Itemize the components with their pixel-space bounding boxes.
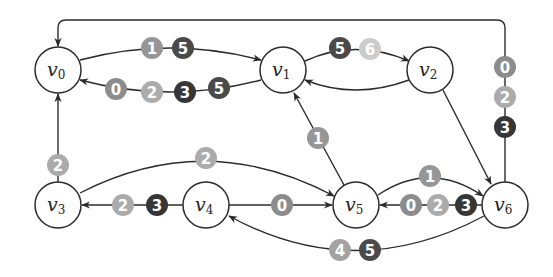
edge-v1-v2: [305, 50, 409, 62]
edge-v6-v0: [58, 20, 505, 182]
edge-label-badge: 3: [146, 194, 168, 216]
edge-label-value: 6: [365, 41, 375, 59]
node-label-v6: v: [494, 193, 505, 215]
edge-label-badge: 2: [141, 81, 163, 103]
edge-label-value: 5: [214, 80, 224, 98]
node-label-v5: v: [345, 193, 356, 215]
edge-label-value: 2: [118, 197, 128, 215]
node-sub-v4: 4: [206, 203, 214, 217]
edge-label-badge: 0: [494, 56, 516, 78]
edge-label-badge: 3: [455, 194, 477, 216]
node-v3: v3: [35, 182, 81, 228]
node-label-v1: v: [272, 58, 283, 80]
edge-v2-v6: [443, 90, 491, 184]
node-label-v2: v: [419, 58, 430, 80]
edge-label-value: 0: [406, 197, 416, 215]
edge-label-badge: 6: [359, 38, 381, 60]
edge-label-value: 0: [111, 81, 121, 99]
graph-diagram: v0 v1 v2 v3 v4 v5 v6 1502355602322230110…: [0, 0, 553, 277]
edge-label-badge: 2: [112, 194, 134, 216]
edge-label-value: 1: [313, 130, 323, 148]
node-sub-v2: 2: [430, 68, 438, 82]
edge-label-badge: 5: [208, 77, 230, 99]
node-v1: v1: [260, 47, 306, 93]
edge-label-badge: 1: [419, 165, 441, 187]
edge-label-badge: 1: [307, 127, 329, 149]
edge-label-badge: 0: [271, 194, 293, 216]
node-v6: v6: [482, 182, 528, 228]
edge-label-badge: 3: [494, 116, 516, 138]
node-sub-v0: 0: [58, 68, 66, 82]
edge-label-value: 1: [147, 40, 157, 58]
node-v5: v5: [333, 182, 379, 228]
edge-label-badge: 0: [105, 78, 127, 100]
edge-label-badge: 2: [427, 194, 449, 216]
edge-v0-v1: [80, 48, 261, 60]
edge-label-value: 2: [500, 89, 510, 107]
node-sub-v1: 1: [283, 68, 291, 82]
edge-label-value: 2: [53, 157, 63, 175]
edge-label-value: 0: [277, 197, 287, 215]
edge-label-value: 3: [152, 197, 162, 215]
edge-label-badge: 5: [359, 239, 381, 261]
edge-label-badge: 1: [141, 37, 163, 59]
edge-label-badge: 5: [329, 37, 351, 59]
edge-v2-v1: [305, 80, 409, 90]
node-label-v0: v: [47, 58, 58, 80]
edge-label-badge: 4: [329, 239, 351, 261]
edge-label-value: 3: [461, 197, 471, 215]
edge-label-value: 5: [335, 40, 345, 58]
edge-label-badge: 5: [172, 37, 194, 59]
edge-label-badge: 3: [174, 81, 196, 103]
edge-label-value: 0: [500, 59, 510, 77]
node-v2: v2: [407, 47, 453, 93]
edge-label-value: 5: [365, 242, 375, 260]
edge-label-value: 1: [425, 168, 435, 186]
edge-label-badge: 2: [47, 154, 69, 176]
node-v4: v4: [183, 182, 229, 228]
edge-label-value: 4: [335, 242, 345, 260]
node-sub-v3: 3: [58, 203, 66, 217]
node-label-v4: v: [195, 193, 206, 215]
edge-label-badge: 2: [494, 86, 516, 108]
node-v0: v0: [35, 47, 81, 93]
edge-label-value: 5: [178, 40, 188, 58]
edge-label-value: 3: [180, 84, 190, 102]
edge-label-badge: 0: [400, 194, 422, 216]
node-sub-v5: 5: [356, 203, 364, 217]
node-sub-v6: 6: [505, 203, 513, 217]
edge-label-value: 2: [433, 197, 443, 215]
edge-label-value: 2: [201, 150, 211, 168]
edge-label-badge: 2: [195, 147, 217, 169]
node-label-v3: v: [47, 193, 58, 215]
edge-label-value: 3: [500, 119, 510, 137]
edge-label-value: 2: [147, 84, 157, 102]
